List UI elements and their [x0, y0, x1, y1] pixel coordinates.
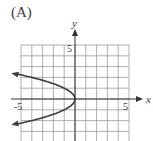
- curve-arrow-lower-icon: [11, 120, 18, 126]
- y-axis-arrow-icon: [72, 29, 78, 36]
- x-tick-label-5: 5: [123, 101, 128, 112]
- x-axis-arrow-icon: [136, 96, 143, 102]
- curve-arrow-upper-icon: [11, 72, 18, 78]
- x-tick-label-neg5: -5: [14, 101, 22, 112]
- chart-svg: x y -5 5 5: [0, 0, 153, 141]
- graph-figure: (A) x y -5 5 5: [0, 0, 153, 141]
- x-axis-label: x: [145, 93, 151, 105]
- y-axis-label: y: [71, 17, 77, 29]
- y-tick-label-5: 5: [67, 43, 72, 54]
